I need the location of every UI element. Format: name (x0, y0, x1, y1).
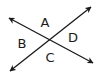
angle-label-a: A (41, 15, 50, 30)
angle-label-d: D (68, 30, 78, 45)
angle-label-c: C (45, 50, 54, 65)
intersecting-lines-diagram: A B C D (0, 0, 102, 76)
angle-label-b: B (18, 36, 27, 51)
